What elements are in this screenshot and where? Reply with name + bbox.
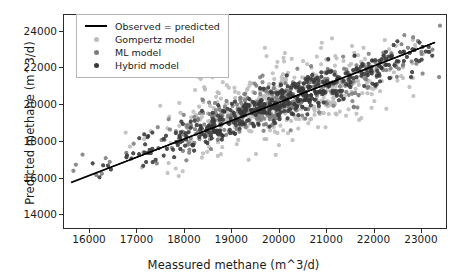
legend-dot-swatch xyxy=(94,63,99,68)
y-tick-mark xyxy=(59,67,63,68)
y-tick-mark xyxy=(59,104,63,105)
legend-item[interactable]: Gompertz model xyxy=(83,33,220,45)
legend-item[interactable]: Observed = predicted xyxy=(83,20,220,32)
y-tick-mark xyxy=(59,178,63,179)
legend-line-swatch xyxy=(85,25,107,27)
x-axis-label: Meassured methane (m^3/d) xyxy=(0,258,467,272)
y-tick-mark xyxy=(59,31,63,32)
legend-dot-swatch xyxy=(94,50,99,55)
y-tick-mark xyxy=(59,214,63,215)
legend-key-line xyxy=(83,25,109,27)
legend-key-marker xyxy=(83,50,109,55)
x-tick-label: 22000 xyxy=(357,233,390,245)
x-tick-label: 20000 xyxy=(262,233,295,245)
legend-item-label: ML model xyxy=(115,47,161,58)
x-tick-label: 16000 xyxy=(72,233,105,245)
x-tick-label: 23000 xyxy=(404,233,437,245)
legend-item-label: Observed = predicted xyxy=(115,21,220,32)
x-tick-label: 18000 xyxy=(167,233,200,245)
x-tick-label: 21000 xyxy=(309,233,342,245)
y-tick-mark xyxy=(59,141,63,142)
x-tick-label: 19000 xyxy=(215,233,248,245)
x-tick-label: 17000 xyxy=(120,233,153,245)
legend-item-label: Hybrid model xyxy=(115,60,179,71)
legend-key-marker xyxy=(83,37,109,42)
legend: Observed = predictedGompertz modelML mod… xyxy=(76,14,229,78)
scatter-plot-figure: 1600017000180001900020000210002200023000… xyxy=(0,0,467,279)
legend-key-marker xyxy=(83,63,109,68)
legend-dot-swatch xyxy=(94,37,99,42)
y-axis-label: Predicted methane (m^3/d) xyxy=(23,7,37,239)
legend-item[interactable]: ML model xyxy=(83,46,220,58)
legend-item[interactable]: Hybrid model xyxy=(83,59,220,71)
legend-item-label: Gompertz model xyxy=(115,34,195,45)
